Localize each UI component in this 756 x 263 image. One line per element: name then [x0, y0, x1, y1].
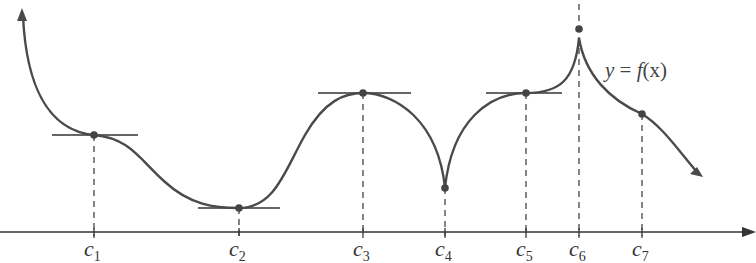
curve-end-arrow-icon [690, 167, 703, 177]
tick-label-c3: c3 [353, 238, 370, 263]
tick-label-c7: c7 [632, 238, 649, 263]
function-label: y = f(x) [605, 58, 667, 83]
x-axis-arrow-icon [742, 227, 756, 237]
tick-label-c1: c1 [84, 238, 101, 263]
tick-label-c5: c5 [516, 238, 533, 263]
dashed-guides [94, 4, 642, 238]
tick-label-c4: c4 [435, 238, 452, 263]
critical-points-diagram: c1 c2 c3 c4 c5 c6 c7 y = f(x) [0, 0, 756, 263]
function-curve [23, 16, 697, 208]
tangent-lines [52, 93, 562, 208]
tick-label-c6: c6 [569, 238, 586, 263]
tick-label-c2: c2 [229, 238, 246, 263]
curve-start-arrow-icon [17, 8, 27, 21]
critical-point-dots [90, 25, 646, 212]
graph-canvas [0, 0, 756, 263]
